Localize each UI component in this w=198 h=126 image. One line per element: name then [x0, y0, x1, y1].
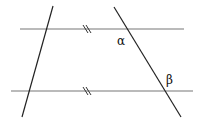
- angle-beta-label: β: [166, 74, 173, 86]
- left-transversal-line: [22, 6, 53, 117]
- geometry-diagram: [0, 0, 198, 126]
- angle-alpha-label: α: [117, 35, 125, 47]
- right-transversal-line: [114, 7, 181, 117]
